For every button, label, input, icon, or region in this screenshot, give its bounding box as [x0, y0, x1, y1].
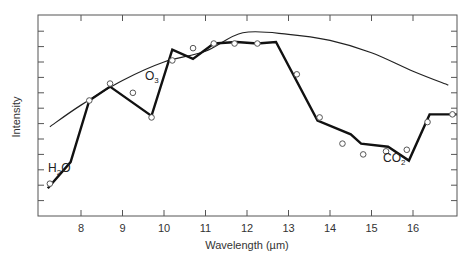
- x-tick-label: 12: [241, 222, 253, 234]
- o3-annotation: O3: [145, 69, 159, 85]
- x-tick-label: 13: [282, 222, 294, 234]
- data-point-circle: [255, 41, 261, 47]
- x-tick-label: 11: [200, 222, 211, 234]
- x-tick-label: 15: [365, 222, 377, 234]
- data-point-circle: [130, 90, 136, 96]
- data-point-circle: [340, 141, 346, 147]
- data-point-circle: [317, 115, 323, 121]
- data-point-circle: [450, 112, 456, 118]
- x-axis-label: Wavelength (µm): [205, 239, 289, 251]
- plot-border: [38, 15, 457, 216]
- data-point-circle: [190, 45, 196, 51]
- x-tick-label: 16: [407, 222, 419, 234]
- data-point-circle: [47, 181, 53, 187]
- data-point-circle: [211, 41, 217, 47]
- data-point-circle: [87, 98, 93, 104]
- data-point-circle: [294, 72, 300, 78]
- data-point-circle: [360, 152, 366, 158]
- x-tick-label: 10: [158, 222, 170, 234]
- x-tick-labels: 8910111213141516: [78, 222, 419, 234]
- x-tick-label: 8: [78, 222, 84, 234]
- co2-annotation: CO2: [383, 151, 406, 167]
- plot-frame: [38, 15, 457, 216]
- spectrum-chart: 8910111213141516 Wavelength (µm) Intensi…: [0, 0, 471, 262]
- axis-ticks: [38, 15, 457, 216]
- data-point-circle: [149, 115, 155, 121]
- data-point-circle: [107, 81, 113, 87]
- data-point-circle: [170, 58, 176, 64]
- h2o-annotation: H2O: [48, 161, 70, 177]
- data-point-circle: [404, 147, 410, 153]
- x-tick-label: 9: [119, 222, 125, 234]
- y-axis-label: Intensity: [10, 96, 22, 137]
- data-point-circle: [232, 41, 238, 47]
- x-tick-label: 14: [324, 222, 336, 234]
- model-spectrum-line: [48, 42, 457, 188]
- blackbody-envelope-curve: [50, 32, 448, 127]
- data-point-circle: [425, 119, 431, 125]
